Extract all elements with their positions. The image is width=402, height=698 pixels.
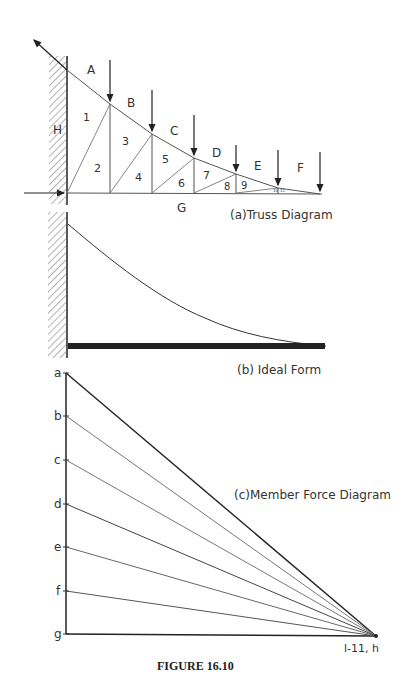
- force-caption: (c)Member Force Diagram: [234, 488, 391, 502]
- space-label-d: D: [212, 146, 221, 160]
- ray-c: [66, 460, 376, 636]
- panel-label-9: 9: [241, 180, 247, 191]
- load-label-f: f: [56, 584, 61, 598]
- load-label-d: d: [54, 497, 62, 511]
- panel-label-7: 7: [203, 169, 210, 182]
- load-label-g: g: [54, 627, 62, 641]
- ray-b: [66, 416, 376, 636]
- space-label-g: G: [177, 201, 186, 215]
- space-label-h: H: [53, 123, 62, 137]
- space-label-c: C: [170, 124, 178, 138]
- base-line-g: [66, 634, 376, 636]
- space-label-b: B: [127, 96, 135, 110]
- ideal-caption: (b) Ideal Form: [237, 363, 321, 377]
- panel-label-4: 4: [135, 171, 142, 184]
- ideal-curve: [68, 224, 326, 346]
- truss-diagram: A B C D E F G H 1 2 3 4 5 6 7 8 9 10 11 …: [24, 40, 333, 222]
- figure-canvas: A B C D E F G H 1 2 3 4 5 6 7 8 9 10 11 …: [0, 0, 402, 698]
- panel-label-2: 2: [94, 162, 101, 175]
- load-label-a: a: [54, 366, 61, 380]
- space-label-e: E: [254, 159, 262, 173]
- ray-a: [66, 373, 376, 636]
- panel-label-8: 8: [224, 181, 230, 192]
- wall-hatch-b: [48, 212, 66, 358]
- panel-label-11: 11: [280, 188, 286, 193]
- load-label-e: e: [54, 540, 61, 554]
- load-label-b: b: [54, 409, 62, 423]
- pole-label: l-11, h: [344, 642, 379, 655]
- panel-label-6: 6: [178, 177, 185, 190]
- ray-d: [66, 504, 376, 636]
- ray-f: [66, 591, 376, 636]
- panel-label-1: 1: [83, 111, 90, 124]
- ideal-form-diagram: (b) Ideal Form: [48, 212, 326, 377]
- panel-label-3: 3: [122, 135, 129, 148]
- truss-caption: (a)Truss Diagram: [230, 208, 333, 222]
- figure-label: FIGURE 16.10: [157, 659, 234, 673]
- panel-label-10: 10: [273, 188, 279, 193]
- space-label-f: F: [297, 161, 304, 175]
- panel-label-5: 5: [162, 153, 169, 166]
- ray-e: [66, 547, 376, 636]
- load-label-c: c: [54, 453, 61, 467]
- space-label-a: A: [87, 63, 96, 77]
- ideal-beam: [68, 343, 325, 349]
- pole-point: [374, 634, 378, 638]
- member-force-diagram: a b c d e f g l-11, h (c)Member Force Di…: [54, 366, 391, 655]
